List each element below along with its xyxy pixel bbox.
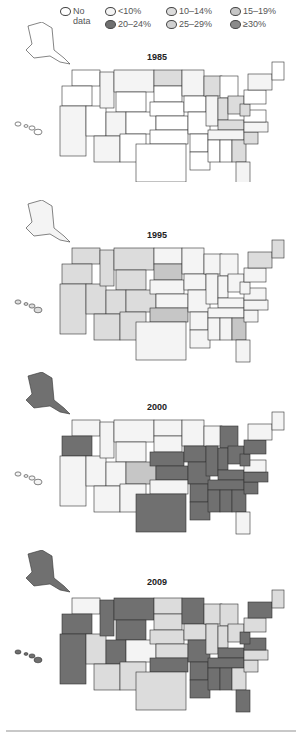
state-me — [272, 62, 284, 80]
state-nv — [86, 284, 106, 314]
state-ky — [218, 470, 244, 480]
state-me — [272, 590, 284, 608]
map-panel-1995: 1995 — [0, 200, 303, 365]
state-il — [206, 624, 218, 654]
state-ky — [218, 298, 244, 308]
state-nc — [244, 472, 268, 482]
state-sd — [154, 436, 182, 452]
state-in — [218, 448, 228, 470]
state-ms — [208, 140, 220, 162]
state-ny — [248, 602, 272, 618]
state-mt — [114, 598, 154, 620]
state-ar — [190, 662, 208, 680]
state-ia — [184, 446, 206, 462]
state-mi — [220, 426, 238, 448]
state-al — [220, 140, 232, 162]
state-ak — [26, 200, 70, 242]
state-wi — [204, 604, 222, 624]
legend-label-15-19: 15–19% — [243, 6, 276, 16]
state-ne — [150, 102, 184, 116]
legend-item-10-14: 10–14% — [166, 6, 212, 16]
state-ak — [26, 22, 70, 64]
map-panel-2000: 2000 — [0, 372, 303, 547]
legend-label-no-data-line1: No — [73, 6, 91, 16]
state-in — [218, 276, 228, 298]
us-map-2000 — [0, 372, 303, 547]
state-wi — [204, 254, 222, 274]
state-la — [190, 330, 210, 348]
us-map-2009 — [0, 550, 303, 730]
state-nc — [244, 300, 268, 310]
state-ia — [184, 274, 206, 290]
state-hi — [15, 650, 21, 654]
legend-swatch-no-data — [60, 7, 71, 16]
state-hi — [34, 129, 42, 135]
state-az — [94, 136, 120, 162]
state-wy — [116, 442, 146, 462]
state-pa — [244, 618, 266, 632]
state-ut — [106, 462, 126, 486]
state-hi — [24, 475, 28, 478]
state-nv — [86, 456, 106, 486]
state-pa — [244, 268, 266, 282]
state-ks — [156, 466, 188, 480]
state-ca — [60, 456, 86, 506]
state-tx — [136, 144, 186, 182]
state-fl — [236, 162, 250, 182]
state-ar — [190, 134, 208, 152]
state-ak — [26, 550, 70, 592]
state-il — [206, 96, 218, 126]
state-sd — [154, 86, 182, 102]
state-hi — [24, 653, 28, 656]
state-ok — [150, 658, 188, 672]
state-ut — [106, 290, 126, 314]
state-hi — [34, 479, 42, 485]
state-id — [100, 250, 114, 286]
state-sc — [244, 482, 258, 494]
state-hi — [15, 472, 21, 476]
state-sc — [244, 310, 258, 322]
state-ok — [150, 308, 188, 322]
state-mn — [182, 70, 204, 96]
state-nd — [154, 248, 182, 264]
state-ks — [156, 644, 188, 658]
state-me — [272, 240, 284, 258]
legend-swatch-under-10 — [105, 7, 116, 16]
state-il — [206, 274, 218, 304]
state-sc — [244, 660, 258, 672]
state-hi — [15, 300, 21, 304]
state-al — [220, 668, 232, 690]
state-tn — [208, 480, 244, 490]
state-mn — [182, 420, 204, 446]
state-hi — [34, 657, 42, 663]
state-or — [62, 264, 92, 284]
state-wa — [72, 248, 100, 264]
legend-swatch-10-14 — [166, 7, 177, 16]
state-mt — [114, 70, 154, 92]
state-az — [94, 314, 120, 340]
state-ks — [156, 116, 188, 130]
state-la — [190, 680, 210, 698]
state-nd — [154, 420, 182, 436]
state-nv — [86, 106, 106, 136]
state-ia — [184, 96, 206, 112]
state-ne — [150, 630, 184, 644]
state-mi — [220, 604, 238, 626]
state-wa — [72, 420, 100, 436]
state-al — [220, 318, 232, 340]
state-wa — [72, 70, 100, 86]
state-mn — [182, 248, 204, 274]
state-ky — [218, 648, 244, 658]
state-fl — [236, 512, 250, 534]
state-or — [62, 86, 92, 106]
state-ny — [248, 424, 272, 440]
state-wv — [240, 282, 250, 294]
state-tx — [136, 322, 186, 360]
state-ak — [26, 372, 70, 414]
state-id — [100, 72, 114, 108]
state-hi — [29, 304, 35, 308]
state-or — [62, 614, 92, 634]
state-ms — [208, 668, 220, 690]
state-nc — [244, 650, 268, 660]
legend-label-under-10: <10% — [118, 6, 141, 16]
